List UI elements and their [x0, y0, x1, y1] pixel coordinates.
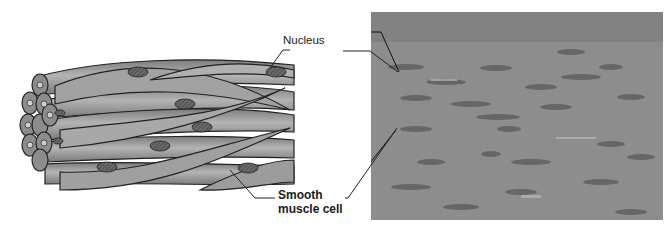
muscle-bundle-illustration: [0, 0, 320, 245]
nucleus-label: Nucleus: [283, 33, 325, 47]
smooth-muscle-cell-label: Smooth muscle cell: [278, 188, 343, 216]
micrograph-panel: [371, 12, 663, 220]
smooth-muscle-cell-label-line1: Smooth: [278, 188, 343, 202]
micrograph-texture: [371, 12, 663, 220]
smooth-muscle-cell-label-line2: muscle cell: [278, 202, 343, 216]
smooth-muscle-figure: Nucleus Smooth muscle cell: [0, 0, 672, 245]
